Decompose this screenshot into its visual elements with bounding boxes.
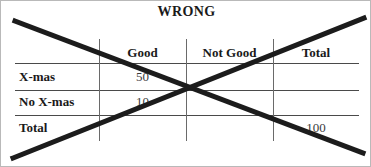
figure-title: WRONG — [1, 4, 371, 20]
cell-total-total: 100 — [273, 120, 359, 136]
table-figure: WRONG Good Not Good Total X-mas No X-mas… — [0, 0, 371, 167]
row-header-xmas: X-mas — [19, 69, 99, 85]
table-rule-under-noxmas-row — [15, 115, 359, 116]
cross-stroke-ascending — [13, 18, 364, 158]
row-header-total: Total — [19, 120, 99, 136]
cell-no-xmas-good: 10 — [99, 94, 186, 110]
row-header-no-xmas: No X-mas — [19, 94, 99, 110]
cell-xmas-good: 50 — [99, 69, 186, 85]
table-rule-under-header — [15, 63, 359, 64]
table-rule-under-xmas-row — [15, 90, 359, 91]
column-header-total: Total — [273, 45, 359, 61]
column-header-good: Good — [99, 45, 186, 61]
column-header-not-good: Not Good — [186, 45, 273, 61]
